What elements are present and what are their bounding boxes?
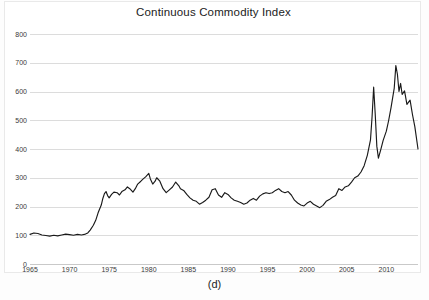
chart-frame: Continuous Commodity Index 0100200300400… [4,1,421,273]
x-tick-label: 1990 [220,266,236,274]
page-title: Continuous Commodity Index [5,6,422,18]
x-tick-label: 2000 [299,266,315,274]
series-line-chart [30,34,418,264]
x-tick-label: 1970 [62,266,78,274]
x-tick-label: 2010 [379,266,395,274]
y-tick-label: 800 [5,31,27,38]
x-tick-label: 1995 [260,266,276,274]
x-axis-line [30,264,418,265]
x-axis-labels: 1965197019751980198519901995200020052010 [30,266,418,278]
y-tick-label: 600 [5,88,27,95]
y-tick-label: 400 [5,146,27,153]
x-tick-label: 1975 [101,266,117,274]
series-polyline [30,66,418,236]
x-tick-label: 1985 [181,266,197,274]
figure-caption: (d) [0,278,429,290]
y-tick-label: 500 [5,117,27,124]
y-tick-label: 700 [5,59,27,66]
x-tick-label: 2005 [339,266,355,274]
plot-area [30,34,418,264]
y-tick-label: 100 [5,232,27,239]
x-tick-label: 1965 [22,266,38,274]
x-tick-label: 1980 [141,266,157,274]
y-tick-label: 300 [5,174,27,181]
y-tick-label: 200 [5,203,27,210]
figure-container: Continuous Commodity Index 0100200300400… [0,0,429,300]
y-axis-labels: 0100200300400500600700800 [5,34,27,264]
